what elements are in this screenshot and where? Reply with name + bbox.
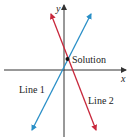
- x-axis-label: x: [120, 73, 126, 84]
- line-2: [51, 14, 96, 130]
- line-1-label: Line 1: [19, 84, 45, 95]
- coordinate-plane: y x Solution Line 1 Line 2: [0, 0, 134, 139]
- y-axis-label: y: [55, 3, 61, 14]
- line-1: [32, 14, 91, 130]
- solution-point: [66, 57, 70, 61]
- solution-label: Solution: [72, 54, 106, 65]
- line-2-label: Line 2: [88, 95, 114, 106]
